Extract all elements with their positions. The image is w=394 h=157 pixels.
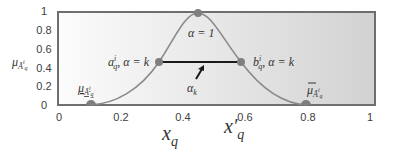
y-tick: 0.2 xyxy=(36,80,51,92)
peak-point xyxy=(194,9,202,17)
y-tick: 0 xyxy=(41,99,47,111)
y-tick: 1 xyxy=(41,5,47,17)
y-tick: 0.4 xyxy=(36,62,51,74)
svg-text:μÃiq: μÃiq xyxy=(11,55,28,71)
x-tick: 0.8 xyxy=(300,111,315,123)
y-tick: 0.6 xyxy=(36,43,51,55)
y-axis-label: μÃiq xyxy=(11,55,28,71)
a-label: aiq, α = k xyxy=(108,54,150,71)
svg-text:aiq, α = k: aiq, α = k xyxy=(108,54,150,71)
membership-function-chart: 1 0.8 0.6 0.4 0.2 0 0 0.2 0.4 0.6 0.8 1 … xyxy=(0,0,394,157)
alpha-one-label: α = 1 xyxy=(188,26,214,40)
svg-text:biq, α = k: biq, α = k xyxy=(253,54,295,71)
plot-area xyxy=(58,12,375,105)
x-tick: 0.4 xyxy=(175,111,190,123)
x-tick: 0.6 xyxy=(237,111,252,123)
x-axis-label: xq xyxy=(161,122,178,149)
x-axis-ticks: 0 0.2 0.4 0.6 0.8 1 xyxy=(56,111,373,123)
y-tick: 0.8 xyxy=(36,24,51,36)
y-axis-ticks: 1 0.8 0.6 0.4 0.2 0 xyxy=(36,5,51,111)
x-tick: 0 xyxy=(56,111,62,123)
x-tick: 1 xyxy=(367,111,373,123)
b-label: biq, α = k xyxy=(253,54,295,71)
x-tick: 0.2 xyxy=(113,111,128,123)
svg-text:xq: xq xyxy=(161,122,178,149)
b-point xyxy=(237,58,245,66)
a-point xyxy=(155,58,163,66)
